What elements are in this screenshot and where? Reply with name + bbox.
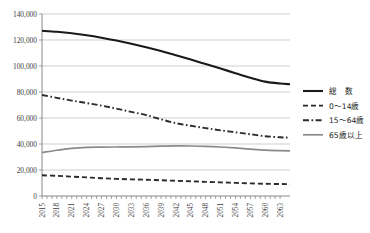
legend-label-1: 0〜14歳 [329,101,360,111]
chart-legend: 総 数0〜14歳15〜64歳65歳以上 [303,86,364,140]
y-tick-label: 140,000 [13,10,37,19]
y-tick-label: 120,000 [13,36,37,45]
chart-canvas: 020,00040,00060,00080,000100,000120,0001… [0,0,370,233]
x-tick-label: 2060 [262,203,270,218]
x-tick-label: 2033 [128,203,136,218]
y-tick-label: 20,000 [17,166,38,175]
legend-label-2: 15〜64歳 [329,115,364,125]
y-tick-label: 0 [33,192,37,201]
x-tick-label: 2036 [143,203,151,218]
x-tick-label: 2021 [68,203,76,218]
series-line-2 [42,95,290,138]
x-tick-label: 2015 [39,203,47,218]
x-tick-label: 2039 [158,203,166,218]
x-tick-label: 2027 [98,203,106,218]
legend-label-0: 総 数 [329,86,353,96]
x-tick-label: 2042 [173,203,181,218]
y-tick-label: 80,000 [17,88,38,97]
x-tick-label: 2018 [53,203,61,218]
x-tick-label: 2045 [187,203,195,218]
x-tick-label: 2054 [232,203,240,218]
series-line-0 [42,31,290,84]
x-tick-label: 2063 [277,203,285,218]
x-tick-label: 2048 [202,203,210,218]
data-series-lines [42,31,290,184]
y-axis-tick-labels: 020,00040,00060,00080,000100,000120,0001… [13,10,42,201]
y-tick-label: 60,000 [17,114,38,123]
series-line-1 [42,175,290,184]
x-tick-label: 2057 [247,203,255,218]
population-projection-chart: 020,00040,00060,00080,000100,000120,0001… [0,0,370,233]
x-tick-label: 2051 [217,203,225,218]
legend-label-3: 65歳以上 [329,130,363,140]
x-tick-label: 2024 [83,203,91,218]
series-line-3 [42,146,290,153]
x-tick-label: 2030 [113,203,121,218]
y-tick-label: 100,000 [13,62,37,71]
x-axis-tick-labels: 2015201820212024202720302033203620392042… [39,203,285,218]
y-tick-label: 40,000 [17,140,38,149]
